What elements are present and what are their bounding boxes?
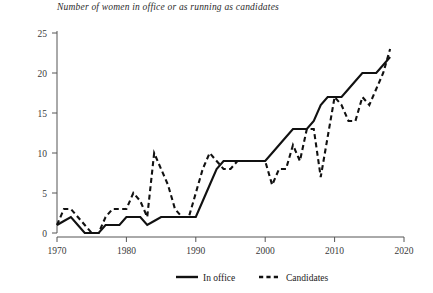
x-tick-label-1970: 1970 (48, 246, 67, 256)
plot-series-group (57, 49, 390, 233)
series-line-in-office (57, 57, 390, 233)
x-tick-label-2000: 2000 (256, 246, 275, 256)
y-tick-label-0: 0 (42, 229, 47, 239)
y-axis-group: 0 5 10 15 20 25 (38, 29, 58, 239)
y-tick-label-25: 25 (38, 29, 48, 39)
x-axis-group: 1970 1980 1990 2000 2010 2020 (48, 237, 414, 256)
chart-figure: Number of women in office or as running … (0, 0, 433, 293)
y-tick-label-5: 5 (42, 189, 47, 199)
x-tick-label-2010: 2010 (325, 246, 344, 256)
legend-label-candidates: Candidates (286, 273, 329, 283)
y-tick-label-20: 20 (38, 69, 48, 79)
chart-legend: In office Candidates (176, 273, 329, 283)
series-line-candidates (57, 49, 390, 233)
y-tick-label-10: 10 (38, 149, 48, 159)
x-tick-label-1980: 1980 (117, 246, 136, 256)
y-tick-label-15: 15 (38, 109, 48, 119)
chart-canvas: 0 5 10 15 20 25 1970 1980 1990 2000 2010… (0, 0, 433, 293)
legend-label-in-office: In office (203, 273, 235, 283)
x-tick-label-1990: 1990 (186, 246, 205, 256)
x-tick-label-2020: 2020 (395, 246, 414, 256)
